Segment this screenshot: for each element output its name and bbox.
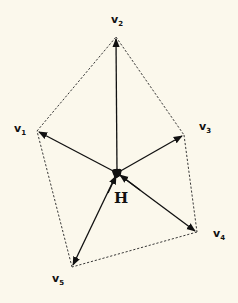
- edge-v5-v1: [37, 131, 72, 267]
- vertex-label-v5: v5: [52, 273, 64, 287]
- edge-v1-v2: [37, 37, 116, 131]
- edge-v3-v4: [184, 135, 197, 232]
- edge-v2-v3: [116, 37, 184, 135]
- diagram-canvas: [0, 0, 238, 303]
- hub-label: H: [114, 191, 128, 206]
- vertex-label-v4: v4: [213, 228, 225, 242]
- spoke-v3-arrow: [117, 136, 182, 173]
- vertex-label-v2: v2: [111, 14, 123, 28]
- hub-node: [112, 169, 122, 178]
- spoke-v1-arrow: [39, 132, 117, 173]
- vertex-label-v1: v1: [14, 123, 26, 137]
- vertex-label-v3: v3: [199, 121, 211, 135]
- spoke-v4-hub-arrow: [120, 175, 140, 190]
- star-diagram: v1 v2 v3 v4 v5 H: [0, 0, 238, 303]
- spoke-v2-arrow: [116, 39, 117, 173]
- edge-v4-v5: [72, 232, 197, 267]
